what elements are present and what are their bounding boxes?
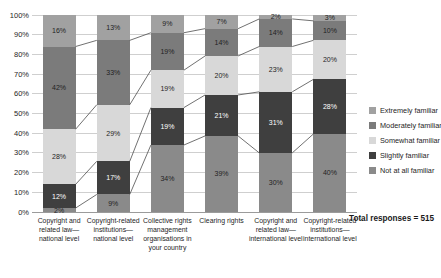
bar-segment: 3% <box>313 15 346 21</box>
legend-swatch-icon <box>369 152 376 159</box>
gridline <box>32 34 357 35</box>
bar-segment: 7% <box>205 15 238 29</box>
bar-segment: 21% <box>205 95 238 136</box>
y-tick-label: 100% <box>1 11 29 20</box>
bar-segment-data-label: 29% <box>106 130 120 137</box>
gridline <box>32 212 357 213</box>
bar-segment-data-label: 20% <box>323 56 337 63</box>
y-tick-label: 70% <box>1 70 29 79</box>
bar-segment-data-label: 23% <box>269 66 283 73</box>
bar-segment-data-label: 16% <box>52 27 66 34</box>
bar-segment-data-label: 42% <box>52 84 66 91</box>
bar-segment-data-label: 33% <box>106 69 120 76</box>
bar-segment-data-label: 30% <box>269 179 283 186</box>
gridline <box>32 152 357 153</box>
legend-item: Not at all familiar <box>369 166 441 175</box>
gridline <box>32 172 357 173</box>
bar-segment: 39% <box>205 136 238 212</box>
bar-segment: 14% <box>259 19 292 47</box>
bar-segment: 10% <box>313 21 346 41</box>
bar-segment-data-label: 14% <box>269 29 283 36</box>
bar-segment-data-label: 21% <box>215 112 229 119</box>
y-tick-label: 60% <box>1 89 29 98</box>
bar-segment-data-label: 12% <box>52 193 66 200</box>
bar-segment: 20% <box>313 40 346 79</box>
bar-segment: 19% <box>151 33 184 70</box>
bar-segment: 16% <box>43 15 76 47</box>
bar-segment: 19% <box>151 108 184 145</box>
y-tick-label: 40% <box>1 129 29 138</box>
bar-segment-data-label: 19% <box>160 48 174 55</box>
bar-segment-data-label: 40% <box>323 169 337 176</box>
bar-segment-data-label: 9% <box>108 200 118 207</box>
bar-segment: 34% <box>151 145 184 212</box>
bar-segment-data-label: 7% <box>217 18 227 25</box>
y-tick-label: 50% <box>1 109 29 118</box>
bar-segment: 19% <box>151 70 184 107</box>
bar-segment-data-label: 17% <box>106 174 120 181</box>
gridline <box>32 74 357 75</box>
gridline <box>32 15 357 16</box>
legend-label: Somewhat familiar <box>380 136 440 145</box>
y-tick-label: 30% <box>1 148 29 157</box>
y-tick-label: 0% <box>1 208 29 217</box>
legend-item: Moderately familiar <box>369 121 441 130</box>
gridline <box>32 113 357 114</box>
legend-swatch-icon <box>369 122 376 129</box>
bar-segment: 28% <box>313 79 346 134</box>
bar-segment: 42% <box>43 47 76 130</box>
gridline <box>32 54 357 55</box>
bar-segment-data-label: 13% <box>106 24 120 31</box>
bar-segment: 17% <box>97 161 130 194</box>
bar-segment-data-label: 20% <box>215 72 229 79</box>
bar-segment-data-label: 9% <box>162 20 172 27</box>
x-axis-category-label: Clearing rights <box>193 217 251 226</box>
bar-segment-data-label: 39% <box>215 170 229 177</box>
bar-segment-data-label: 28% <box>323 103 337 110</box>
legend-item: Somewhat familiar <box>369 136 441 145</box>
legend-item: Slightly familiar <box>369 151 441 160</box>
bar-segment: 2% <box>259 15 292 19</box>
x-axis-category-label: Collective rights management organisatio… <box>138 217 196 253</box>
gridline <box>32 93 357 94</box>
bar-segment-data-label: 19% <box>160 123 174 130</box>
total-responses-note: Total responses = 515 <box>349 214 434 223</box>
bar-segment-data-label: 14% <box>215 39 229 46</box>
legend-label: Extremely familiar <box>380 106 438 115</box>
legend-label: Slightly familiar <box>380 151 429 160</box>
plot-area: 2%9%34%39%30%40%12%17%19%21%31%28%28%29%… <box>32 15 357 212</box>
y-tick-label: 80% <box>1 50 29 59</box>
bar-segment-data-label: 31% <box>269 119 283 126</box>
gridline <box>32 192 357 193</box>
y-tick-label: 90% <box>1 30 29 39</box>
legend: Extremely familiarModerately familiarSom… <box>369 106 441 175</box>
bar-segment: 31% <box>259 92 292 153</box>
bar-segment: 9% <box>151 15 184 33</box>
bar-segment: 14% <box>205 29 238 56</box>
legend-label: Moderately familiar <box>380 121 441 130</box>
bar-segment: 2% <box>43 208 76 212</box>
bar-segment: 33% <box>97 40 130 104</box>
y-tick-label: 20% <box>1 168 29 177</box>
bar-segment-data-label: 28% <box>52 153 66 160</box>
legend-swatch-icon <box>369 107 376 114</box>
bar-segment-data-label: 19% <box>160 85 174 92</box>
bar-segment: 20% <box>205 56 238 95</box>
gridline <box>32 133 357 134</box>
bar-segment: 28% <box>43 129 76 184</box>
bar-segment-data-label: 34% <box>160 175 174 182</box>
legend-item: Extremely familiar <box>369 106 441 115</box>
bar-segment: 40% <box>313 134 346 212</box>
y-tick-label: 10% <box>1 188 29 197</box>
legend-swatch-icon <box>369 137 376 144</box>
x-axis-category-label: Copyright-related institutions—national … <box>84 217 142 244</box>
legend-swatch-icon <box>369 167 376 174</box>
legend-label: Not at all familiar <box>380 166 434 175</box>
bar-segment: 29% <box>97 105 130 162</box>
x-axis-category-label: Copyright and related law—national level <box>30 217 88 244</box>
bar-segment: 9% <box>97 194 130 212</box>
bar-segment: 12% <box>43 184 76 208</box>
bar-segment: 30% <box>259 153 292 212</box>
x-axis-category-label: Copyright and related law—international … <box>247 217 305 244</box>
bar-segment-data-label: 3% <box>325 14 335 21</box>
